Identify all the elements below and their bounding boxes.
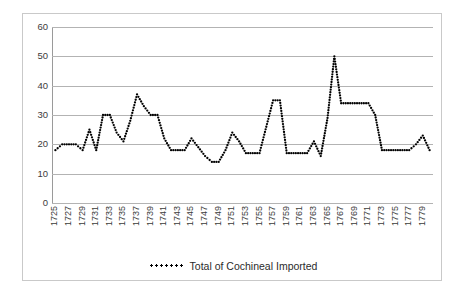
y-tick-label-40: 40: [37, 81, 48, 91]
x-tick-label-1759: 1759: [282, 206, 291, 226]
x-tick-label-1751: 1751: [227, 206, 236, 226]
x-tick-label-1741: 1741: [159, 206, 168, 226]
plot-area: [52, 27, 433, 203]
x-tick-label-1749: 1749: [214, 206, 223, 226]
x-tick-label-1727: 1727: [64, 206, 73, 226]
chart-container: 0102030405060 17251727172917311733173517…: [22, 13, 442, 281]
x-tick-label-1753: 1753: [241, 206, 250, 226]
x-tick-label-1775: 1775: [391, 206, 400, 226]
chart-legend: Total of Cochineal Imported: [23, 257, 443, 272]
legend-line-swatch: [149, 264, 183, 267]
x-tick-label-1755: 1755: [255, 206, 264, 226]
x-tick-label-1771: 1771: [363, 206, 372, 226]
x-tick-label-1767: 1767: [336, 206, 345, 226]
y-tick-label-0: 0: [43, 198, 48, 208]
x-tick-label-1733: 1733: [105, 206, 114, 226]
legend-item-label: Total of Cochineal Imported: [190, 260, 318, 272]
x-tick-label-1763: 1763: [309, 206, 318, 226]
x-tick-label-1757: 1757: [268, 206, 277, 226]
series-line-total-of-cochineal-imported: [52, 27, 433, 203]
x-tick-label-1737: 1737: [132, 206, 141, 226]
x-tick-label-1765: 1765: [323, 206, 332, 226]
y-tick-label-60: 60: [37, 22, 48, 32]
y-tick-label-30: 30: [37, 110, 48, 120]
x-tick-label-1779: 1779: [418, 206, 427, 226]
x-tick-label-1773: 1773: [377, 206, 386, 226]
x-tick-label-1725: 1725: [50, 206, 59, 226]
x-tick-label-1761: 1761: [295, 206, 304, 226]
y-tick-label-10: 10: [37, 169, 48, 179]
x-tick-label-1729: 1729: [78, 206, 87, 226]
gridline-0: [52, 203, 433, 204]
y-tick-label-50: 50: [37, 52, 48, 62]
x-axis-labels: 1725172717291731173317351737173917411743…: [52, 206, 433, 252]
x-tick-label-1747: 1747: [200, 206, 209, 226]
x-tick-label-1777: 1777: [404, 206, 413, 226]
y-axis-labels: 0102030405060: [23, 14, 48, 280]
x-tick-label-1735: 1735: [118, 206, 127, 226]
x-tick-label-1739: 1739: [146, 206, 155, 226]
y-tick-label-20: 20: [37, 140, 48, 150]
x-tick-label-1769: 1769: [350, 206, 359, 226]
x-tick-label-1743: 1743: [173, 206, 182, 226]
x-tick-label-1745: 1745: [186, 206, 195, 226]
x-tick-label-1731: 1731: [91, 206, 100, 226]
